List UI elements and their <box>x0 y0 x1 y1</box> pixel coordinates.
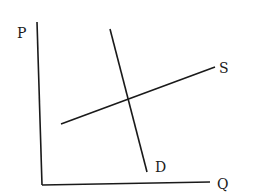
quantity-axis-label: Q <box>217 177 228 191</box>
quantity-axis <box>42 182 210 185</box>
demand-curve-label: D <box>155 160 166 174</box>
supply-curve <box>61 67 215 124</box>
supply-curve-label: S <box>219 61 229 75</box>
supply-demand-diagram <box>0 0 260 195</box>
price-axis <box>37 22 42 185</box>
demand-curve <box>110 29 147 172</box>
price-axis-label: P <box>17 26 26 40</box>
